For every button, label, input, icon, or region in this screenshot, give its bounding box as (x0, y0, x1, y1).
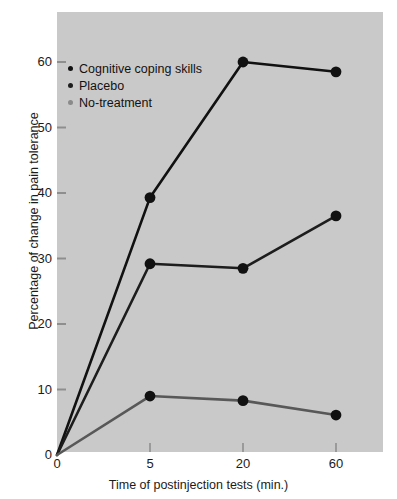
data-point (238, 263, 249, 274)
chart-legend: Cognitive coping skillsPlaceboNo-treatme… (68, 61, 202, 112)
legend-marker-icon (68, 66, 73, 71)
legend-marker-icon (68, 100, 73, 105)
legend-item: Placebo (68, 78, 202, 93)
legend-item: No-treatment (68, 95, 202, 110)
series-layer (57, 57, 341, 455)
legend-label: No-treatment (79, 96, 152, 110)
legend-label: Cognitive coping skills (79, 62, 202, 76)
x-tick-label: 20 (223, 457, 263, 470)
series-line (57, 62, 336, 455)
data-point (331, 66, 342, 77)
y-axis-title: Percentage of change in pain tolerance (27, 101, 41, 341)
data-point (145, 192, 156, 203)
tick-marks (57, 62, 336, 452)
legend-item: Cognitive coping skills (68, 61, 202, 76)
x-tick-label: 5 (130, 457, 170, 470)
data-point (331, 211, 342, 222)
data-point (238, 395, 249, 406)
data-point (331, 410, 342, 421)
legend-label: Placebo (79, 79, 124, 93)
x-axis-title: Time of postinjection tests (min.) (0, 478, 397, 492)
x-tick-label: 0 (37, 457, 77, 470)
series-line (57, 396, 336, 455)
legend-marker-icon (68, 83, 73, 88)
data-point (145, 391, 156, 402)
y-tick-label: 10 (26, 383, 52, 396)
y-tick-label: 60 (26, 55, 52, 68)
chart-figure: 0102030405060 Percentage of change in pa… (0, 0, 397, 499)
data-point (238, 57, 249, 68)
data-point (145, 258, 156, 269)
x-tick-label: 60 (316, 457, 356, 470)
